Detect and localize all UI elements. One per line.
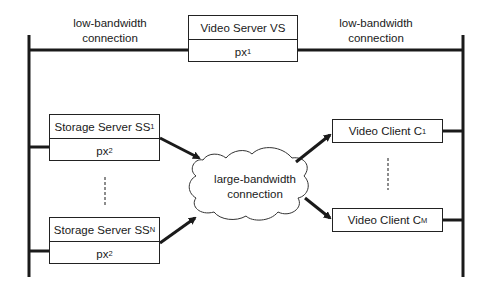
video-server-param: px1 bbox=[189, 39, 297, 63]
storage-server-1-box: Storage Server SS1 px2 bbox=[49, 114, 160, 161]
storage-server-1-name: Storage Server SS1 bbox=[50, 115, 159, 138]
storage-server-n-param: px2 bbox=[50, 241, 159, 265]
storage-server-n-box: Storage Server SSN px2 bbox=[49, 217, 160, 264]
video-client-m-box: Video Client CM bbox=[332, 208, 443, 232]
video-client-1-box: Video Client C1 bbox=[332, 119, 443, 143]
storage-server-1-param: px2 bbox=[50, 138, 159, 162]
storage-server-n-name: Storage Server SSN bbox=[50, 218, 159, 241]
video-server-box: Video Server VS px1 bbox=[188, 15, 298, 62]
video-client-1-name: Video Client C1 bbox=[333, 120, 442, 142]
cloud-label: large-bandwidth connection bbox=[205, 172, 305, 202]
video-client-m-name: Video Client CM bbox=[333, 209, 442, 231]
left-low-bandwidth-label: low-bandwidth connection bbox=[60, 16, 160, 46]
video-server-name: Video Server VS bbox=[189, 16, 297, 39]
right-low-bandwidth-label: low-bandwidth connection bbox=[326, 16, 426, 46]
